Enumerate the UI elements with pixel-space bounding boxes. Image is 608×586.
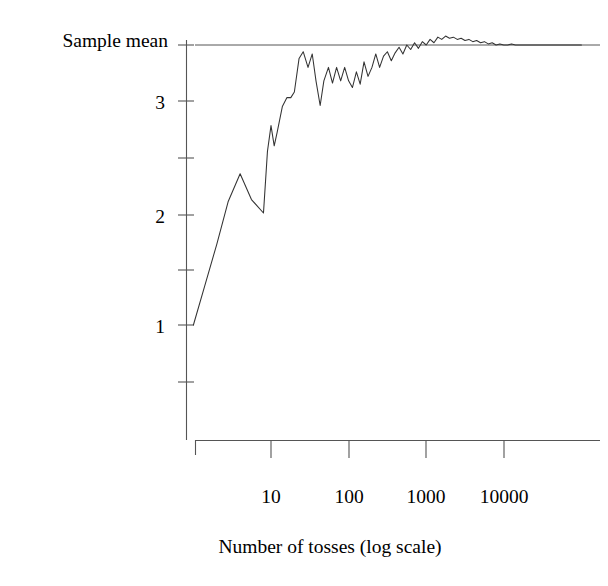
y-tick-label-3: 3	[155, 92, 165, 113]
x-axis-title: Number of tosses (log scale)	[218, 536, 441, 558]
y-tick-label-2: 2	[155, 206, 165, 227]
chart-figure: Sample mean 3 2 1	[0, 0, 608, 586]
sample-mean-convergence-chart: Sample mean 3 2 1	[0, 0, 608, 586]
y-axis-title: Sample mean	[62, 30, 168, 51]
y-tick-label-1: 1	[155, 316, 165, 337]
x-tick-label-100: 100	[334, 486, 363, 507]
x-tick-label-10: 10	[261, 486, 281, 507]
x-tick-label-1000: 1000	[407, 486, 446, 507]
x-tick-label-10000: 10000	[480, 486, 529, 507]
